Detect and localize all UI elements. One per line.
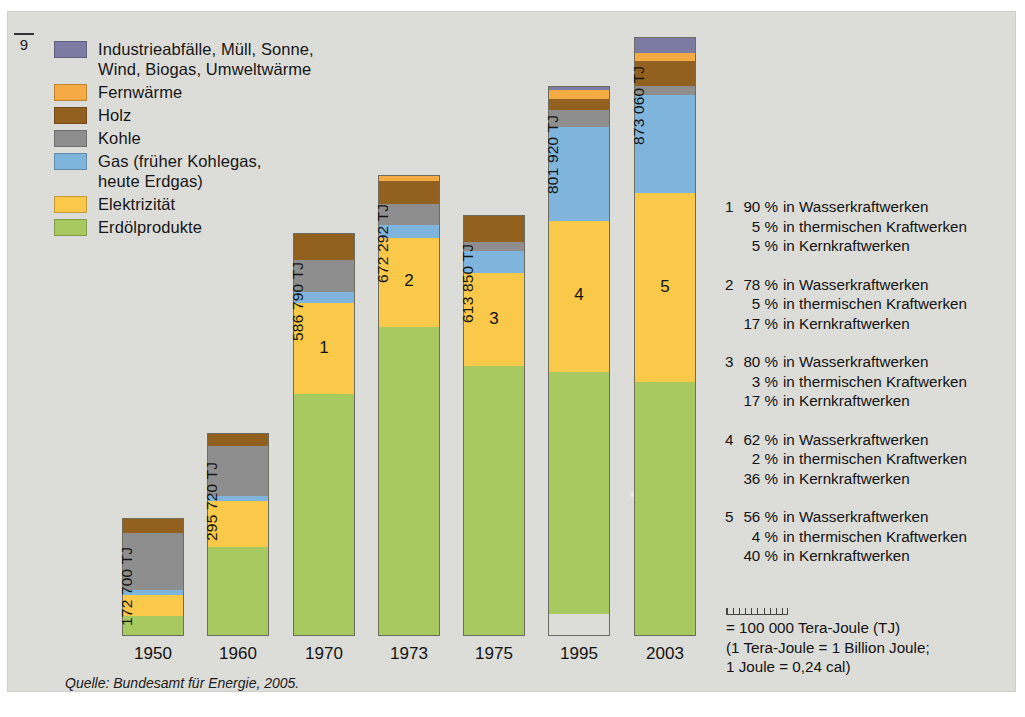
- footnote-text: in thermischen Kraftwerken: [783, 372, 1015, 392]
- footnote-percent: 5 %: [740, 236, 783, 256]
- x-axis-label-2003: 2003: [625, 644, 705, 664]
- bar-annotation-1970: 1: [293, 338, 355, 358]
- scale-key-line-3: 1 Joule = 0,24 cal): [726, 657, 1016, 677]
- footnote-line: 3 %in thermischen Kraftwerken: [725, 372, 1015, 392]
- footnote-text: in Wasserkraftwerken: [783, 507, 1015, 527]
- bar-segment-1975-holz: [464, 216, 524, 242]
- bar-segment-1973-holz: [379, 181, 439, 204]
- footnote-group-5: 556 %in Wasserkraftwerken4 %in thermisch…: [725, 507, 1015, 566]
- footnote-line: 36 %in Kernkraftwerken: [725, 469, 1015, 489]
- x-axis-label-1973: 1973: [369, 644, 449, 664]
- footnote-line: 2 %in thermischen Kraftwerken: [725, 449, 1015, 469]
- bar-segment-2003-fernwrme: [635, 53, 695, 61]
- chart-panel: 9 Industrieabfälle, Müll, Sonne, Wind, B…: [7, 11, 1016, 692]
- footnote-group-4: 462 %in Wasserkraftwerken2 %in thermisch…: [725, 430, 1015, 489]
- footnote-percent: 5 %: [740, 294, 783, 314]
- footnote-list: 190 %in Wasserkraftwerken5 %in thermisch…: [725, 197, 1015, 585]
- footnote-index: [725, 546, 740, 566]
- x-axis-label-1970: 1970: [284, 644, 364, 664]
- footnote-group-2: 278 %in Wasserkraftwerken5 %in thermisch…: [725, 275, 1015, 334]
- footnote-percent: 4 %: [740, 527, 783, 547]
- bar-segment-2003-erdlprodukte: [635, 382, 695, 636]
- footnote-text: in thermischen Kraftwerken: [783, 294, 1015, 314]
- footnote-line: 5 %in thermischen Kraftwerken: [725, 217, 1015, 237]
- footnote-index: [725, 294, 740, 314]
- bar-segment-1973-erdlprodukte: [379, 327, 439, 636]
- footnote-line: 278 %in Wasserkraftwerken: [725, 275, 1015, 295]
- bar-annotation-1973: 2: [378, 271, 440, 291]
- bar-annotation-1995: 4: [548, 285, 610, 305]
- footnote-percent: 62 %: [740, 430, 783, 450]
- footnote-line: 380 %in Wasserkraftwerken: [725, 352, 1015, 372]
- footnote-index: [725, 469, 740, 489]
- bar-segment-1995-erdlprodukte: [549, 372, 609, 615]
- footnote-line: 190 %in Wasserkraftwerken: [725, 197, 1015, 217]
- footnote-index: 1: [725, 197, 740, 217]
- footnote-line: 40 %in Kernkraftwerken: [725, 546, 1015, 566]
- bar-total-label-1960: 295 720 TJ: [203, 462, 221, 541]
- footnote-text: in thermischen Kraftwerken: [783, 527, 1015, 547]
- bar-segment-1960-holz: [208, 434, 268, 446]
- scale-key-line-2: (1 Tera-Joule = 1 Billion Joule;: [726, 638, 1016, 658]
- x-axis-label-1950: 1950: [113, 644, 193, 664]
- bar-segment-1970-holz: [294, 234, 354, 259]
- scale-ruler-icon: [726, 608, 788, 615]
- x-axis-label-1995: 1995: [539, 644, 619, 664]
- bar-total-label-2003: 873 060 TJ: [630, 66, 648, 145]
- scale-key: = 100 000 Tera-Joule (TJ) (1 Tera-Joule …: [726, 608, 1016, 677]
- footnote-index: [725, 217, 740, 237]
- source-note: Quelle: Bundesamt für Energie, 2005.: [65, 675, 299, 691]
- footnote-index: 4: [725, 430, 740, 450]
- footnote-index: [725, 314, 740, 334]
- bar-total-label-1970: 586 790 TJ: [289, 262, 307, 341]
- footnote-text: in Wasserkraftwerken: [783, 430, 1015, 450]
- footnote-text: in Kernkraftwerken: [783, 546, 1015, 566]
- footnote-text: in Kernkraftwerken: [783, 314, 1015, 334]
- footnote-line: 5 %in thermischen Kraftwerken: [725, 294, 1015, 314]
- x-axis-label-1975: 1975: [454, 644, 534, 664]
- footnote-line: 5 %in Kernkraftwerken: [725, 236, 1015, 256]
- footnote-index: [725, 236, 740, 256]
- x-axis-label-1960: 1960: [198, 644, 278, 664]
- footnote-line: 17 %in Kernkraftwerken: [725, 391, 1015, 411]
- bar-segment-1995-fernwrme: [549, 90, 609, 98]
- footnote-index: [725, 372, 740, 392]
- footnote-percent: 80 %: [740, 352, 783, 372]
- bar-annotation-1975: 3: [463, 309, 525, 329]
- footnote-text: in Kernkraftwerken: [783, 391, 1015, 411]
- footnote-percent: 56 %: [740, 507, 783, 527]
- footnote-text: in Wasserkraftwerken: [783, 197, 1015, 217]
- footnote-text: in thermischen Kraftwerken: [783, 217, 1015, 237]
- footnote-text: in Kernkraftwerken: [783, 236, 1015, 256]
- bar-segment-1995-holz: [549, 99, 609, 111]
- footnote-index: 5: [725, 507, 740, 527]
- footnote-percent: 90 %: [740, 197, 783, 217]
- footnote-percent: 5 %: [740, 217, 783, 237]
- footnote-percent: 78 %: [740, 275, 783, 295]
- footnote-line: 462 %in Wasserkraftwerken: [725, 430, 1015, 450]
- footnote-line: 4 %in thermischen Kraftwerken: [725, 527, 1015, 547]
- bar-segment-1960-erdlprodukte: [208, 547, 268, 636]
- footnote-text: in Kernkraftwerken: [783, 469, 1015, 489]
- bar-segment-1975-erdlprodukte: [464, 366, 524, 636]
- footnote-index: 2: [725, 275, 740, 295]
- footnote-text: in Wasserkraftwerken: [783, 352, 1015, 372]
- footnote-line: 556 %in Wasserkraftwerken: [725, 507, 1015, 527]
- bar-segment-2003-industrieabflle: [635, 38, 695, 53]
- footnote-index: 3: [725, 352, 740, 372]
- bar-segment-1950-holz: [123, 519, 183, 533]
- footnote-percent: 3 %: [740, 372, 783, 392]
- footnote-text: in thermischen Kraftwerken: [783, 449, 1015, 469]
- footnote-percent: 36 %: [740, 469, 783, 489]
- bar-annotation-2003: 5: [634, 277, 696, 297]
- footnote-text: in Wasserkraftwerken: [783, 275, 1015, 295]
- chart-page: 9 Industrieabfälle, Müll, Sonne, Wind, B…: [0, 0, 1025, 717]
- footnote-group-3: 380 %in Wasserkraftwerken3 %in thermisch…: [725, 352, 1015, 411]
- footnote-percent: 17 %: [740, 314, 783, 334]
- footnote-index: [725, 391, 740, 411]
- bar-total-label-1950: 172 700 TJ: [118, 546, 136, 625]
- scale-key-line-1: = 100 000 Tera-Joule (TJ): [726, 618, 1016, 638]
- footnote-index: [725, 449, 740, 469]
- bar-segment-1970-erdlprodukte: [294, 394, 354, 636]
- footnote-group-1: 190 %in Wasserkraftwerken5 %in thermisch…: [725, 197, 1015, 256]
